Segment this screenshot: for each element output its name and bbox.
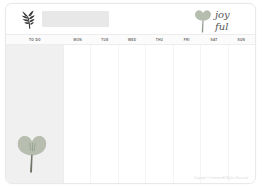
flower-illustration bbox=[15, 133, 49, 173]
tulip-flower-icon bbox=[193, 9, 213, 33]
day-column-tue[interactable] bbox=[91, 45, 118, 183]
brand-line-2: ful bbox=[214, 21, 228, 32]
column-header-fri: fri bbox=[173, 35, 200, 44]
day-column-mon[interactable] bbox=[64, 45, 91, 183]
planner-page: joy ful TO DO mon tue wed thu fri sat su… bbox=[5, 3, 256, 184]
planner-title-input[interactable] bbox=[42, 11, 109, 27]
day-column-wed[interactable] bbox=[119, 45, 146, 183]
todo-panel[interactable] bbox=[6, 45, 64, 183]
header-band: joy ful bbox=[6, 4, 255, 34]
day-column-sun[interactable] bbox=[229, 45, 255, 183]
column-header-thu: thu bbox=[146, 35, 173, 44]
column-header-tue: tue bbox=[91, 35, 118, 44]
columns-header-row: TO DO mon tue wed thu fri sat sun bbox=[6, 34, 255, 45]
column-header-mon: mon bbox=[64, 35, 91, 44]
day-columns-area bbox=[64, 45, 255, 183]
copyright-note: Copyright © mmmmm All Rights Reserved bbox=[194, 177, 248, 180]
brand-wordmark: joy ful bbox=[213, 7, 249, 33]
brand-line-1: joy bbox=[213, 9, 230, 20]
day-column-sat[interactable] bbox=[201, 45, 228, 183]
day-column-fri[interactable] bbox=[174, 45, 201, 183]
day-column-thu[interactable] bbox=[146, 45, 173, 183]
leaf-sprig-icon bbox=[19, 9, 39, 30]
brand-logo: joy ful bbox=[193, 6, 249, 34]
column-header-sat: sat bbox=[200, 35, 227, 44]
column-header-todo: TO DO bbox=[6, 35, 64, 44]
column-header-wed: wed bbox=[119, 35, 146, 44]
column-header-sun: sun bbox=[228, 35, 255, 44]
planner-body-grid bbox=[6, 45, 255, 183]
